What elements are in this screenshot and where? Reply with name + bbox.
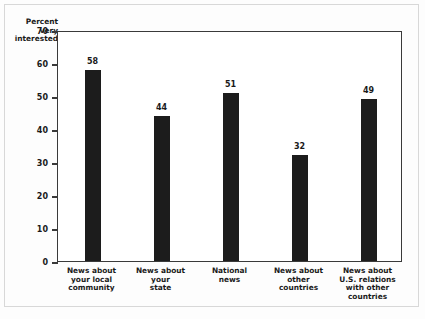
bar — [361, 99, 377, 261]
bar — [292, 155, 308, 261]
y-axis-tick-label: 50 — [2, 93, 48, 102]
y-axis-tick-label: 30 — [2, 159, 48, 168]
x-axis-category-label: News about other countries — [262, 267, 336, 293]
y-axis-tick-label: 60 — [2, 60, 48, 69]
bar-value-label: 51 — [225, 80, 236, 89]
bar-value-label: 58 — [87, 57, 98, 66]
bar-group: 32 — [265, 30, 334, 261]
bar — [223, 93, 239, 261]
bar-value-label: 44 — [156, 103, 167, 112]
bar-group: 51 — [196, 30, 265, 261]
bar-group: 58 — [58, 30, 127, 261]
bar-group: 44 — [127, 30, 196, 261]
x-axis-category-label: National news — [193, 267, 267, 284]
y-axis-tick-label: 10 — [2, 225, 48, 234]
bar — [154, 116, 170, 261]
y-axis-tick-label: 20 — [2, 192, 48, 201]
x-axis-category-label: News about your local community — [55, 267, 129, 293]
bar-group: 49 — [334, 30, 403, 261]
bar — [85, 70, 101, 261]
y-axis-tick-label: 40 — [2, 126, 48, 135]
x-axis-category-label: News about your state — [124, 267, 198, 293]
chart-figure: Percent very interested 010203040506070 … — [0, 0, 425, 319]
y-axis-tick-mark — [52, 262, 58, 263]
plot-area: 010203040506070 5844513249 — [57, 31, 402, 262]
bar-value-label: 49 — [363, 86, 374, 95]
x-axis-category-label: News about U.S. relations with other cou… — [331, 267, 405, 301]
y-axis-tick-label: 0 — [2, 258, 48, 267]
bar-value-label: 32 — [294, 142, 305, 151]
y-axis-tick-label: 70 — [2, 27, 48, 36]
